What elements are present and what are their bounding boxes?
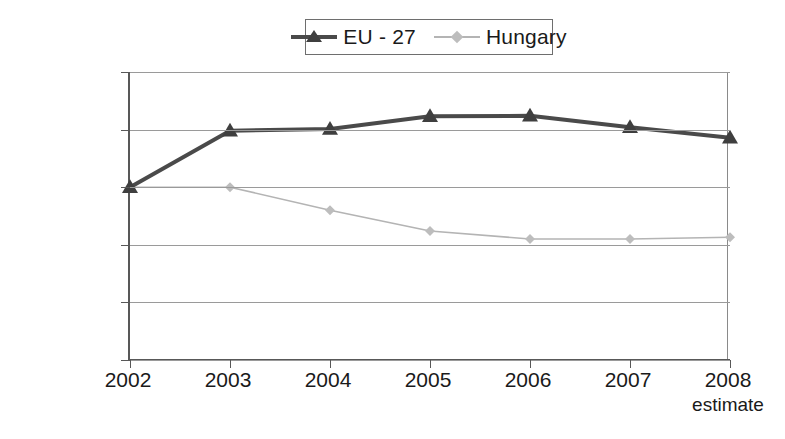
gridline-y <box>130 72 730 73</box>
line-chart: EU - 27 Hungary 70.00%80.00%90.00%100.00… <box>0 0 785 439</box>
legend-label-hungary: Hungary <box>486 25 567 49</box>
x-axis-tick-label: 2008 <box>668 368 785 392</box>
legend-marker-eu-27-icon <box>291 28 337 46</box>
legend-entry-eu-27: EU - 27 <box>291 25 416 49</box>
x-tick-mark <box>330 360 331 368</box>
gridline-y <box>130 245 730 246</box>
x-tick-mark <box>730 360 731 368</box>
data-point-marker <box>425 226 435 236</box>
chart-legend: EU - 27 Hungary <box>305 19 553 55</box>
x-tick-mark <box>530 360 531 368</box>
series-layer <box>130 72 730 360</box>
gridline-y <box>130 302 730 303</box>
figure-caption <box>4 428 781 439</box>
y-tick-mark <box>121 360 130 361</box>
x-tick-mark <box>130 360 131 368</box>
data-point-marker <box>725 232 735 242</box>
x-tick-mark <box>430 360 431 368</box>
y-tick-mark <box>121 187 130 188</box>
gridline-y <box>130 130 730 131</box>
data-point-marker <box>325 205 335 215</box>
series-line-eu-27 <box>130 116 730 187</box>
legend-marker-hungary-icon <box>434 28 480 46</box>
y-tick-mark <box>121 302 130 303</box>
x-tick-mark <box>630 360 631 368</box>
gridline-y <box>130 187 730 188</box>
data-point-marker <box>525 234 535 244</box>
y-tick-mark <box>121 245 130 246</box>
legend-entry-hungary: Hungary <box>434 25 567 49</box>
legend-label-eu-27: EU - 27 <box>343 25 416 49</box>
y-tick-mark <box>121 72 130 73</box>
y-tick-mark <box>121 130 130 131</box>
data-point-marker <box>625 234 635 244</box>
x-axis-tick-sublabel: estimate <box>668 394 785 416</box>
x-tick-mark <box>230 360 231 368</box>
plot-area <box>128 72 728 360</box>
